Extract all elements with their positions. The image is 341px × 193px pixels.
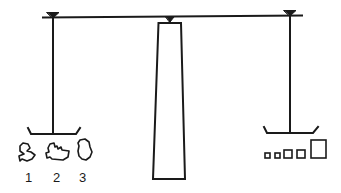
weight-small-1: [265, 153, 270, 158]
central-pillar: [153, 23, 185, 179]
weight-large: [311, 140, 326, 158]
weight-medium-1: [284, 150, 292, 158]
object-2-irregular-shape: [46, 143, 69, 160]
object-label-3: 3: [79, 170, 86, 185]
object-1-irregular-shape: [19, 143, 35, 161]
weight-small-2: [275, 153, 280, 158]
object-label-2: 2: [53, 170, 60, 185]
weight-medium-2: [297, 150, 305, 158]
object-3-irregular-shape: [78, 139, 92, 160]
object-label-1: 1: [25, 170, 32, 185]
balance-scale-diagram: 1 2 3: [0, 0, 341, 193]
